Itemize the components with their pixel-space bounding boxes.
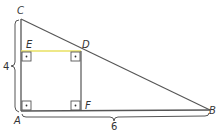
geometry-diagram: C E D F A B 4 6 xyxy=(0,0,219,133)
label-a: A xyxy=(13,115,21,126)
label-e: E xyxy=(26,39,33,50)
label-d: D xyxy=(82,39,90,50)
label-c: C xyxy=(17,5,24,16)
right-angle-marker-a xyxy=(22,101,31,110)
label-f: F xyxy=(85,100,91,111)
brace-ac xyxy=(11,20,19,112)
right-angle-marker-e xyxy=(22,52,31,61)
dimension-ab: 6 xyxy=(111,121,117,132)
side-ab xyxy=(21,110,210,111)
side-cb xyxy=(21,19,210,110)
brace-ab xyxy=(22,113,209,121)
right-angle-marker-f xyxy=(71,101,80,110)
right-angle-marker-d xyxy=(71,52,80,61)
label-b: B xyxy=(209,105,216,116)
dimension-ac: 4 xyxy=(3,61,9,72)
